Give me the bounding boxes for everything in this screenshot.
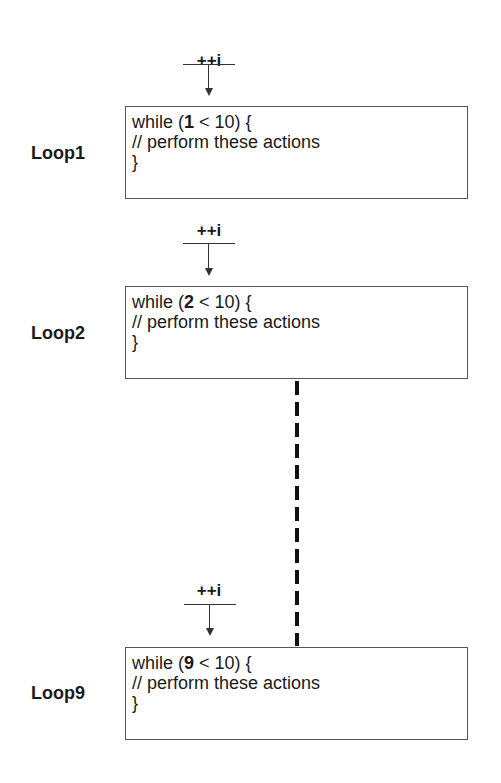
loop-label-1: Loop1: [31, 143, 85, 164]
code-close-brace: }: [132, 152, 467, 172]
code-close-brace: }: [132, 332, 467, 352]
code-prefix: while (: [132, 653, 184, 673]
counter-value: 9: [184, 653, 194, 673]
code-suffix: < 10) {: [194, 653, 252, 673]
increment-bar-9: [184, 604, 236, 605]
code-line-1: while (9 < 10) {: [132, 653, 467, 673]
code-line-1: while (2 < 10) {: [132, 292, 467, 312]
arrow-down-icon: [206, 628, 214, 636]
counter-value: 1: [184, 112, 194, 132]
code-close-brace: }: [132, 693, 467, 713]
loop-box-2: while (2 < 10) { // perform these action…: [125, 286, 468, 379]
loop-label-9: Loop9: [31, 683, 85, 704]
code-comment: // perform these actions: [132, 673, 467, 693]
code-line-1: while (1 < 10) {: [132, 112, 467, 132]
code-comment: // perform these actions: [132, 312, 467, 332]
code-suffix: < 10) {: [194, 292, 252, 312]
code-comment: // perform these actions: [132, 132, 467, 152]
arrow-shaft-9: [209, 604, 210, 628]
increment-label-2: ++i: [183, 222, 235, 239]
loop-box-9: while (9 < 10) { // perform these action…: [125, 647, 468, 740]
increment-bar-1: [183, 64, 235, 65]
arrow-down-icon: [205, 88, 213, 96]
arrow-down-icon: [205, 268, 213, 276]
increment-label-9: ++i: [183, 582, 235, 599]
loop-label-2: Loop2: [31, 323, 85, 344]
code-prefix: while (: [132, 292, 184, 312]
counter-value: 2: [184, 292, 194, 312]
code-prefix: while (: [132, 112, 184, 132]
dashed-continuation-line: [295, 381, 299, 646]
code-suffix: < 10) {: [194, 112, 252, 132]
arrow-shaft-2: [208, 243, 209, 268]
increment-label-1: ++i: [183, 52, 235, 69]
increment-bar-2: [183, 243, 235, 244]
arrow-shaft-1: [208, 64, 209, 88]
loop-box-1: while (1 < 10) { // perform these action…: [125, 106, 468, 199]
